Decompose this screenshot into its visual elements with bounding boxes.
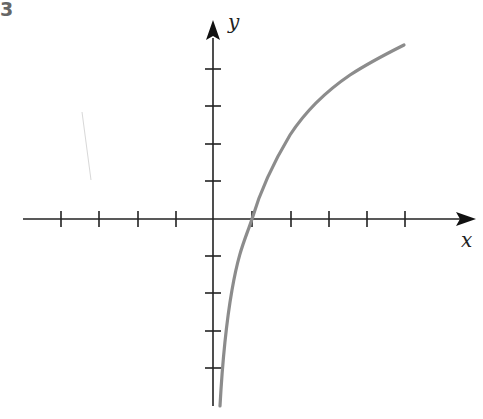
scan-artifact: [82, 112, 91, 180]
log-curve: [220, 45, 404, 406]
y-axis-arrow-icon: [206, 20, 220, 40]
y-axis-label: y: [228, 10, 239, 34]
x-axis-label: x: [461, 228, 472, 252]
y-axis: [205, 20, 221, 406]
graph: [0, 0, 483, 419]
